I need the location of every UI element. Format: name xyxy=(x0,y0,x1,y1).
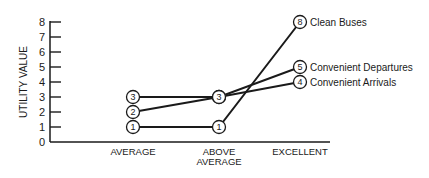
series-lines xyxy=(133,22,300,127)
inline-legend: Clean BusesConvenient DeparturesConvenie… xyxy=(310,17,413,88)
series-line xyxy=(133,67,300,112)
x-category-label: AVERAGE xyxy=(110,146,155,157)
y-tick-label: 3 xyxy=(39,91,45,103)
legend-label: Clean Buses xyxy=(310,17,367,28)
y-tick-label: 1 xyxy=(39,121,45,133)
y-tick-label: 5 xyxy=(39,61,45,73)
data-point-value: 8 xyxy=(297,17,302,27)
y-tick-label: 8 xyxy=(39,16,45,28)
y-axis-label: UTILITY VALUE xyxy=(18,46,29,118)
series-line xyxy=(133,22,300,127)
data-point-value: 4 xyxy=(297,77,302,87)
y-tick-label: 0 xyxy=(39,136,45,148)
x-category-label: EXCELLENT xyxy=(272,146,328,157)
data-point-value: 2 xyxy=(130,107,135,117)
x-category-labels: AVERAGEABOVEAVERAGEEXCELLENT xyxy=(110,146,328,167)
data-point-value: 3 xyxy=(216,92,221,102)
data-point-value: 1 xyxy=(130,122,135,132)
data-point-value: 5 xyxy=(297,62,302,72)
y-tick-label: 6 xyxy=(39,46,45,58)
y-tick-label: 4 xyxy=(39,76,45,88)
y-tick-label: 7 xyxy=(39,31,45,43)
x-category-label: AVERAGE xyxy=(196,156,241,167)
legend-label: Convenient Departures xyxy=(310,62,413,73)
legend-label: Convenient Arrivals xyxy=(310,77,396,88)
data-point-value: 3 xyxy=(130,92,135,102)
data-point-value: 1 xyxy=(216,122,221,132)
y-tick-label: 2 xyxy=(39,106,45,118)
utility-value-line-chart: UTILITY VALUE 012345678 AVERAGEABOVEAVER… xyxy=(0,0,429,178)
